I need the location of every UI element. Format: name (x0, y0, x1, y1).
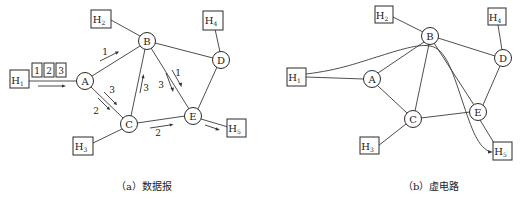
router-e: E (470, 104, 487, 121)
svg-text:2: 2 (46, 66, 52, 76)
link-c-e (421, 112, 470, 118)
arrow-e-h5 (205, 125, 220, 131)
link-h3-c (91, 129, 122, 144)
vc-arrowhead (488, 150, 493, 153)
link-c-e (137, 116, 185, 123)
router-a: A (77, 73, 94, 90)
host-h4: H4 (488, 8, 506, 25)
svg-text:E: E (474, 107, 481, 118)
link-b-d (155, 43, 213, 58)
link-h3-c (378, 124, 406, 146)
svg-text:1: 1 (175, 68, 181, 78)
packet-queue: 1 2 3 (32, 63, 66, 77)
arrow-a-b-1: 1 (100, 47, 119, 61)
svg-text:2: 2 (93, 106, 99, 116)
caption-datagram: （a）数据报 (116, 178, 172, 193)
arrow-c-b-3: 3 (140, 74, 149, 93)
link-b-c (415, 44, 429, 111)
svg-text:E: E (189, 111, 196, 122)
datagram-diagram: 1 2 3 1 3 (10, 10, 246, 155)
svg-text:1: 1 (102, 47, 108, 57)
link-d-e (483, 66, 500, 105)
packet-2: 2 (44, 63, 54, 77)
router-b: B (139, 33, 156, 50)
svg-text:A: A (80, 76, 89, 87)
host-h2: H2 (375, 6, 393, 23)
link-b-e (151, 48, 189, 109)
link-e-h5 (480, 120, 494, 143)
host-h5: H5 (227, 119, 246, 137)
virtual-circuit-diagram: A B C D E H1 H2 H3 (287, 6, 512, 160)
host-h1: H1 (10, 70, 29, 88)
svg-text:3: 3 (58, 66, 64, 76)
host-h3: H3 (73, 137, 93, 155)
link-a-c (378, 86, 407, 113)
host-h2: H2 (91, 10, 111, 28)
svg-text:A: A (367, 74, 376, 85)
link-h2-b (111, 20, 140, 36)
svg-text:1: 1 (34, 66, 40, 76)
host-h3: H3 (360, 137, 379, 154)
vc-curve-h1-to-h5 (306, 45, 491, 152)
arrow-h1-a (38, 85, 66, 88)
svg-text:C: C (125, 119, 133, 130)
svg-text:2: 2 (155, 128, 161, 138)
links (306, 17, 502, 146)
router-b: B (422, 28, 439, 45)
caption-virtual-circuit: （b）虚电路 (403, 178, 459, 193)
link-h1-a (306, 77, 364, 79)
svg-text:B: B (426, 31, 433, 42)
svg-text:B: B (143, 36, 150, 47)
link-h4-d (215, 29, 220, 52)
host-h1: H1 (287, 68, 306, 86)
svg-text:3: 3 (143, 83, 149, 93)
link-b-d (438, 38, 495, 56)
link-d-e (198, 67, 217, 109)
router-d: D (213, 52, 230, 69)
link-a-b (378, 42, 424, 73)
packet-1: 1 (32, 63, 42, 77)
svg-text:D: D (217, 55, 225, 66)
router-c: C (405, 111, 422, 128)
router-a: A (364, 71, 381, 88)
svg-text:3: 3 (109, 85, 115, 95)
host-h5: H5 (493, 142, 512, 160)
svg-text:C: C (409, 114, 417, 125)
arrow-a-c-2: 2 (93, 98, 110, 116)
packet-3: 3 (56, 63, 66, 77)
router-c: C (121, 116, 138, 133)
link-h4-d (498, 25, 502, 50)
host-h4: H4 (203, 11, 223, 30)
link-a-b (92, 46, 140, 76)
svg-text:D: D (499, 53, 507, 64)
arrow-b-e-3: 3 (158, 73, 174, 92)
link-e-h5 (201, 119, 228, 127)
virtual-circuit-path (306, 45, 493, 153)
link-b-e (434, 43, 474, 105)
router-e: E (185, 108, 202, 125)
link-h2-b (393, 17, 423, 32)
svg-text:3: 3 (158, 80, 164, 90)
network-diagrams: 1 2 3 1 3 (0, 0, 523, 199)
router-d: D (495, 50, 512, 67)
arrow-c-e-2: 2 (150, 123, 174, 138)
